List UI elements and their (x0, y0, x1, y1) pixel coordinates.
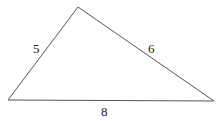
triangle-diagram: 5 6 8 (0, 0, 222, 121)
side-label-right: 6 (148, 41, 155, 56)
side-label-left: 5 (33, 41, 40, 56)
side-label-base: 8 (101, 104, 108, 119)
